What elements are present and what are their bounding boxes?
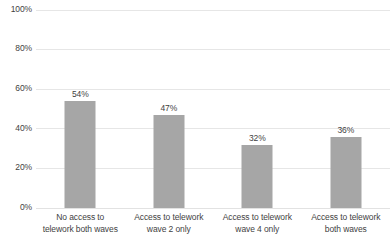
x-axis-category-label: Access to telework wave 4 only <box>213 212 302 235</box>
bar-chart: 100% 80% 60% 40% 20% 0% 54% 47% 32% 36% … <box>0 0 392 248</box>
bar-value-label: 54% <box>72 90 89 99</box>
x-axis-category-label: No access to telework both waves <box>36 212 125 235</box>
bar-group: 32% <box>213 10 302 208</box>
plot-area: 54% 47% 32% 36% <box>36 10 390 208</box>
y-axis-tick-label: 80% <box>0 44 32 53</box>
bar-value-label: 32% <box>249 134 266 143</box>
x-axis-category-line: both waves <box>302 224 391 236</box>
x-axis-category-label: Access to telework both waves <box>302 212 391 235</box>
y-axis-tick-label: 40% <box>0 124 32 133</box>
x-axis-category-label: Access to telework wave 2 only <box>125 212 214 235</box>
axis-baseline <box>36 208 390 209</box>
bar <box>153 115 184 208</box>
y-axis-tick-label: 20% <box>0 163 32 172</box>
x-axis-category-line: Access to telework <box>213 212 302 224</box>
bar-group: 47% <box>125 10 214 208</box>
bar <box>242 145 273 208</box>
bar <box>330 137 361 208</box>
bar-value-label: 47% <box>160 104 177 113</box>
bar-value-label: 36% <box>337 126 354 135</box>
bar-group: 54% <box>36 10 125 208</box>
y-axis-tick-label: 60% <box>0 84 32 93</box>
x-axis-category-line: telework both waves <box>36 224 125 236</box>
y-axis-tick-label: 100% <box>0 5 32 14</box>
x-axis-category-line: wave 4 only <box>213 224 302 236</box>
x-axis-category-line: No access to <box>36 212 125 224</box>
x-axis-labels: No access to telework both waves Access … <box>36 212 390 246</box>
x-axis-category-line: Access to telework <box>302 212 391 224</box>
x-axis-category-line: wave 2 only <box>125 224 214 236</box>
y-axis-tick-label: 0% <box>0 203 32 212</box>
bar <box>65 101 96 208</box>
bar-group: 36% <box>302 10 391 208</box>
x-axis-category-line: Access to telework <box>125 212 214 224</box>
